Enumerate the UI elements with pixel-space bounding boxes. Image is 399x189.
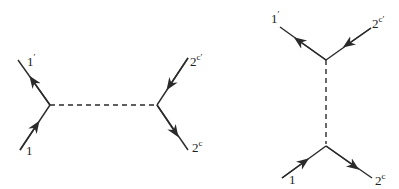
arrow-icon bbox=[157, 105, 175, 132]
labels-vertical: 1′ 2c′ 1 2c bbox=[271, 9, 386, 188]
label-1: 1 bbox=[289, 172, 296, 187]
feynman-diagrams: 1′ 1 2c′ 2c 1′ 2c′ 1 2c bbox=[0, 0, 399, 189]
arrow-icon bbox=[326, 146, 354, 166]
label-1-prime: 1′ bbox=[271, 9, 280, 26]
label-2c: 2c bbox=[192, 138, 203, 155]
arrow-icon bbox=[170, 58, 188, 85]
label-1: 1 bbox=[26, 143, 33, 158]
diagram-horizontal bbox=[18, 58, 188, 150]
diagram-vertical bbox=[280, 27, 372, 178]
arrow-icon bbox=[33, 81, 50, 105]
arrow-icon bbox=[348, 28, 371, 44]
label-2c-prime: 2c′ bbox=[372, 14, 384, 31]
label-2c-prime: 2c′ bbox=[190, 52, 202, 69]
arrow-icon bbox=[299, 41, 326, 60]
label-1-prime: 1′ bbox=[27, 52, 36, 69]
label-2c: 2c bbox=[375, 171, 386, 188]
